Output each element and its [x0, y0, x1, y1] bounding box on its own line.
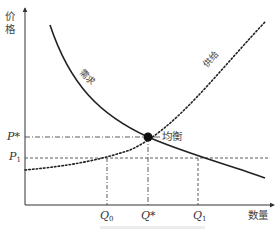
supply-curve [25, 22, 265, 170]
q0-main: Q [100, 209, 109, 222]
q-star-label: Q* [141, 210, 156, 221]
figure-caption [100, 226, 205, 229]
x-axis-label: 数量 [248, 210, 268, 221]
equilibrium-point [144, 133, 153, 142]
p1-sub: 1 [16, 156, 20, 164]
p-star-label: P* [7, 131, 20, 142]
demand-curve [50, 25, 265, 178]
q0-sub: 0 [109, 215, 113, 223]
q1-main: Q [193, 209, 202, 222]
q1-sub: 1 [202, 215, 206, 223]
q1-label: Q1 [193, 210, 207, 223]
q0-label: Q0 [100, 210, 114, 223]
supply-demand-diagram [0, 0, 280, 235]
equilibrium-label: 均衡 [162, 131, 182, 142]
y-axis-label: 价格 [5, 10, 17, 36]
p1-label: P1 [9, 151, 21, 164]
